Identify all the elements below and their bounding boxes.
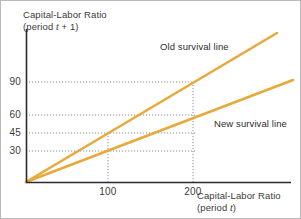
chart-figure: Capital-Labor Ratio (period t + 1) Capit…: [0, 0, 301, 219]
plot-area: [1, 1, 301, 219]
series-line-old-survival: [26, 33, 277, 182]
horizontal-gridlines: [26, 82, 196, 151]
vertical-gridlines: [108, 82, 193, 182]
series-line-new-survival: [26, 80, 293, 182]
